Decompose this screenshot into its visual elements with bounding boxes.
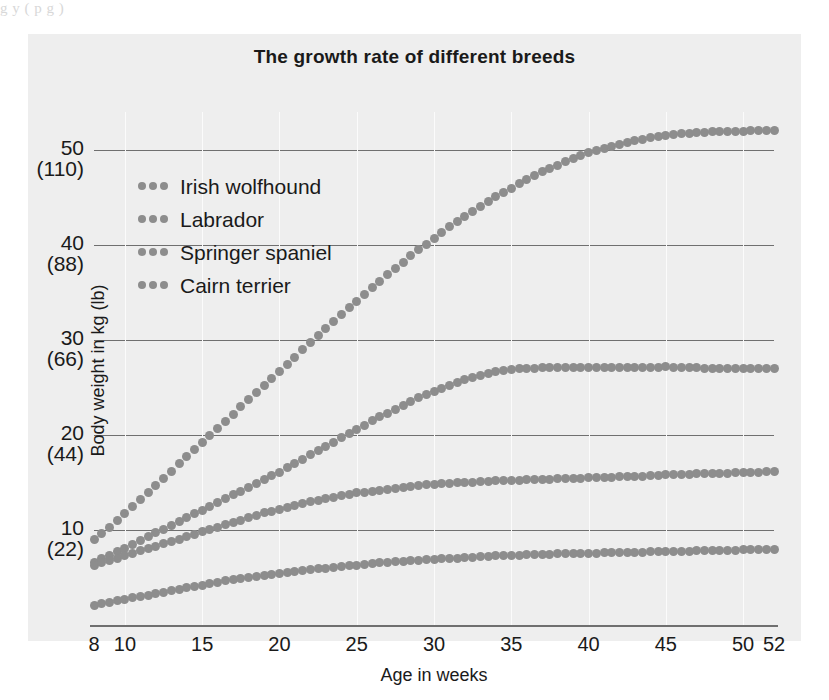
y-tick-lb: (110): [0, 158, 84, 179]
chart-legend: Irish wolfhoundLabradorSpringer spanielC…: [138, 170, 332, 302]
y-tick-50: 50(110): [0, 137, 84, 180]
page-artifact-text: g y ( p g ): [0, 0, 829, 18]
y-tick-10: 10(22): [0, 517, 84, 560]
legend-marker-icon: [138, 248, 172, 257]
chart-title: The growth rate of different breeds: [28, 46, 801, 68]
x-axis-line: [90, 625, 778, 627]
legend-item-label: Labrador: [180, 208, 264, 232]
y-tick-kg: 50: [61, 136, 84, 159]
y-tick-lb: (66): [0, 348, 84, 369]
legend-item-label: Cairn terrier: [180, 274, 291, 298]
x-tick-20: 20: [268, 633, 290, 656]
x-tick-50: 50: [732, 633, 754, 656]
y-tick-lb: (44): [0, 443, 84, 464]
y-tick-kg: 20: [61, 421, 84, 444]
x-axis-label: Age in weeks: [94, 665, 774, 686]
legend-marker-icon: [138, 215, 172, 224]
y-axis-label: Body weight in kg (lb): [88, 221, 109, 521]
y-tick-30: 30(66): [0, 327, 84, 370]
y-tick-kg: 40: [61, 231, 84, 254]
x-tick-40: 40: [577, 633, 599, 656]
x-tick-52: 52: [763, 633, 785, 656]
y-tick-kg: 30: [61, 326, 84, 349]
legend-item-label: Irish wolfhound: [180, 175, 321, 199]
legend-item-cairn-terrier[interactable]: Cairn terrier: [138, 269, 332, 302]
data-point: [770, 545, 779, 554]
x-tick-35: 35: [500, 633, 522, 656]
y-tick-kg: 10: [61, 516, 84, 539]
legend-item-springer-spaniel[interactable]: Springer spaniel: [138, 236, 332, 269]
legend-marker-icon: [138, 182, 172, 191]
y-tick-lb: (22): [0, 538, 84, 559]
y-tick-40: 40(88): [0, 232, 84, 275]
x-tick-10: 10: [114, 633, 136, 656]
y-tick-20: 20(44): [0, 422, 84, 465]
legend-item-irish-wolfhound[interactable]: Irish wolfhound: [138, 170, 332, 203]
x-tick-30: 30: [423, 633, 445, 656]
x-tick-45: 45: [655, 633, 677, 656]
legend-item-labrador[interactable]: Labrador: [138, 203, 332, 236]
y-tick-lb: (88): [0, 253, 84, 274]
chart-figure: The growth rate of different breeds 50(1…: [28, 34, 801, 641]
x-tick-25: 25: [346, 633, 368, 656]
x-tick-15: 15: [191, 633, 213, 656]
legend-item-label: Springer spaniel: [180, 241, 332, 265]
legend-marker-icon: [138, 281, 172, 290]
x-tick-8: 8: [88, 633, 99, 656]
